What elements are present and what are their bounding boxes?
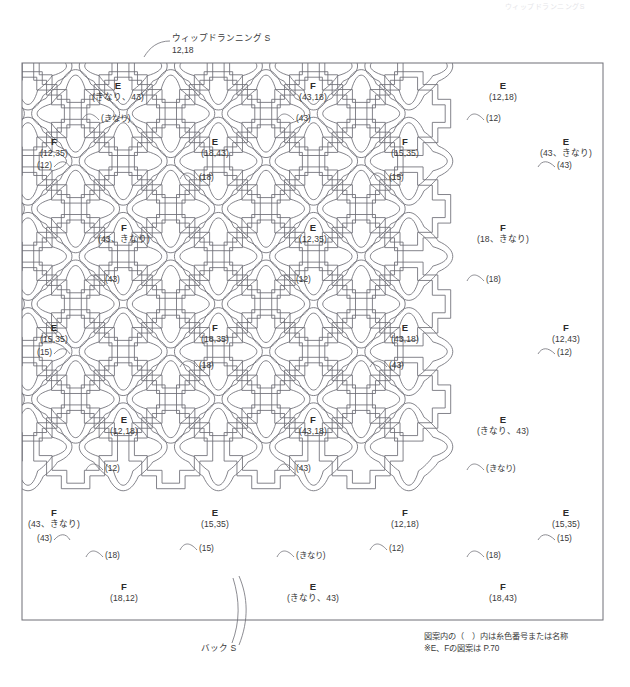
lattice-contour <box>0 170 19 247</box>
lattice-contour <box>0 165 24 253</box>
lattice-contour <box>0 215 22 299</box>
lattice-contour <box>367 0 451 60</box>
lattice-contour <box>132 0 209 57</box>
lattice-artwork <box>0 0 630 687</box>
lattice-contour <box>0 119 22 203</box>
lattice-contour <box>228 0 305 57</box>
lattice-contour <box>0 0 24 62</box>
footnote-line-1: 図案内の（ ）内は糸色番号または名称 <box>424 631 568 643</box>
lattice-contour <box>81 0 165 60</box>
lattice-contour <box>182 0 255 55</box>
footnote: 図案内の（ ）内は糸色番号または名称 ※E、Fの図案は P.70 <box>424 631 568 655</box>
lattice-contour <box>222 0 310 62</box>
lattice-contour <box>0 260 24 348</box>
lattice-contour <box>0 75 19 152</box>
lattice-contour <box>0 355 24 443</box>
callout-leader-line <box>144 41 170 57</box>
lattice-contour <box>0 0 70 60</box>
lattice-contour <box>0 24 22 108</box>
lattice-contour <box>317 0 405 62</box>
lattice-contour <box>0 220 17 293</box>
lattice-contour <box>0 315 17 388</box>
lattice-contour <box>37 0 114 57</box>
lattice-contour <box>0 70 24 158</box>
lattice-contour <box>32 0 120 62</box>
lattice-contour <box>0 410 17 483</box>
lattice-contour <box>272 0 356 60</box>
lattice-contour <box>0 125 17 198</box>
lattice-contour <box>0 30 17 103</box>
lattice-contour <box>127 0 215 62</box>
lattice-contour <box>177 0 261 60</box>
lattice-contour <box>0 0 19 57</box>
lattice-contour <box>0 310 22 394</box>
lattice-contour <box>0 361 19 438</box>
lattice-contour <box>372 0 445 55</box>
lattice-contour <box>0 0 64 55</box>
lattice-contour <box>277 0 350 55</box>
lattice-contour <box>0 266 19 343</box>
lattice-contour <box>0 405 22 489</box>
lattice-contour <box>323 0 400 57</box>
lattice-contour <box>87 0 160 55</box>
pattern-diagram-page: ウィップドランニングS E(きなり、43)(きなり)F(43,18)(43)E(… <box>0 0 630 687</box>
footnote-line-2: ※E、Fの図案は P.70 <box>424 643 568 655</box>
